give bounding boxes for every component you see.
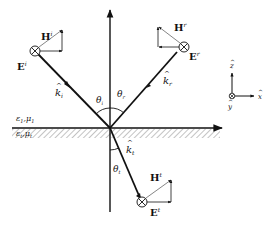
transmitted-k-label: kt [126, 144, 135, 156]
reflected-h-label: Hr [174, 21, 187, 33]
transmitted-e-field-into-page-icon [137, 197, 147, 207]
theta-i-arc [96, 108, 110, 114]
incident-ray [38, 54, 110, 128]
reflected-k-label: kr [163, 75, 173, 87]
theta-i-label: θi [96, 95, 103, 106]
z-axis-hat: ^ [230, 58, 235, 65]
transmitted-e-label: Et [150, 206, 161, 218]
theta-t-arc [110, 148, 119, 150]
x-axis-hat: ^ [258, 88, 263, 95]
theta-r-arc [110, 108, 124, 113]
theta-r-label: θr [117, 89, 125, 100]
upper-medium-label: ε1,μ1 [16, 114, 34, 124]
reflected-e-label: Er [189, 50, 201, 62]
transmitted-h-label: Ht [150, 171, 162, 183]
reflection-diagram: Hi Ei ^ ki θi Hr Er ^ kr θr Ht Et ^ kt θ… [0, 0, 270, 228]
incident-h-label: Hi [41, 30, 52, 42]
theta-t-label: θt [113, 164, 121, 175]
coordinate-system [229, 73, 254, 99]
y-axis-hat: ^ [228, 98, 233, 105]
incident-e-field-into-page-icon [30, 46, 40, 56]
incident-e-label: Ei [17, 60, 27, 72]
lower-medium-hatch [12, 129, 220, 138]
transmitted-ray [110, 128, 140, 198]
reflected-e-field-into-page-icon [179, 42, 189, 52]
